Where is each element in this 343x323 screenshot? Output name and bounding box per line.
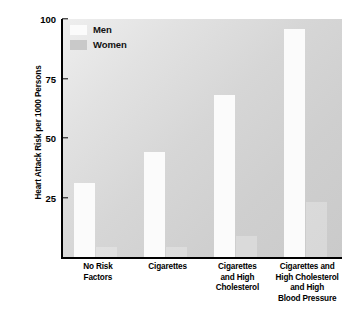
y-axis-tick-label: 75	[30, 73, 56, 84]
bar-women	[166, 247, 187, 257]
x-axis-category-line: High Cholesterol	[272, 273, 342, 284]
plot-area	[63, 19, 342, 257]
x-axis-category-line: Factors	[63, 273, 133, 284]
legend-item-label: Men	[93, 24, 112, 35]
x-axis-category-line: Blood Pressure	[272, 294, 342, 305]
x-axis-category-line: Cigarettes	[133, 262, 203, 273]
bar-men	[284, 29, 305, 257]
x-axis-category-line: No Risk	[63, 262, 133, 273]
x-axis-line	[61, 257, 342, 259]
bar-women	[236, 236, 257, 257]
legend-item-men: Men	[70, 22, 190, 37]
y-axis-tick-mark	[62, 137, 68, 138]
y-axis-tick-label: 25	[30, 192, 56, 203]
bar-men	[214, 95, 235, 257]
x-axis-category-line: Cigarettes	[203, 262, 273, 273]
bar-men	[74, 183, 95, 257]
x-axis-category-label: No RiskFactors	[63, 262, 133, 283]
y-axis-tick-labels: 100755025	[30, 0, 56, 323]
x-axis-category-label: Cigarettesand HighCholesterol	[203, 262, 273, 294]
x-axis-category-line: Cigarettes and	[272, 262, 342, 273]
y-axis-tick-label: 100	[30, 14, 56, 25]
x-axis-category-line: Cholesterol	[203, 283, 273, 294]
y-axis-tick-mark	[62, 197, 68, 198]
bar-women	[96, 247, 117, 257]
bar-men	[144, 152, 165, 257]
y-axis-tick-mark	[62, 78, 68, 79]
x-axis-category-line: and High	[272, 283, 342, 294]
y-axis-tick-label: 50	[30, 133, 56, 144]
legend-swatch-icon	[70, 40, 87, 50]
x-axis-category-line: and High	[203, 273, 273, 284]
chart-legend: MenWomen	[70, 22, 190, 52]
x-axis-category-label: Cigarettes andHigh Cholesteroland HighBl…	[272, 262, 342, 304]
legend-item-women: Women	[70, 37, 190, 52]
x-axis-category-labels: No RiskFactorsCigarettesCigarettesand Hi…	[63, 262, 342, 323]
legend-item-label: Women	[93, 39, 127, 50]
x-axis-category-label: Cigarettes	[133, 262, 203, 273]
bar-women	[306, 202, 327, 257]
bar-chart: Heart Attack Risk per 1000 Persons 10075…	[0, 0, 343, 323]
y-axis-tick-mark	[62, 18, 68, 19]
legend-swatch-icon	[70, 25, 87, 35]
